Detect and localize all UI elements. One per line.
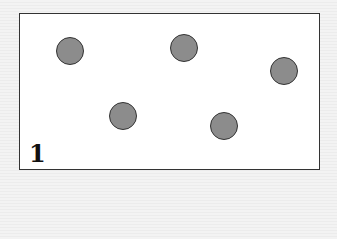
circle-dot [56, 37, 84, 65]
circle-dot [210, 112, 238, 140]
circle-dot [170, 34, 198, 62]
circle-dot [109, 102, 137, 130]
circle-dot [270, 57, 298, 85]
panel-number: 1 [29, 142, 46, 166]
diagram-frame [19, 13, 320, 170]
